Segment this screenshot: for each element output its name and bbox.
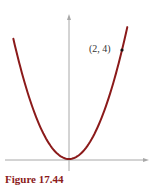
parabola-plot (0, 0, 158, 189)
point-label: (2, 4) (89, 43, 111, 54)
figure-caption: Figure 17.44 (5, 173, 63, 185)
point-marker (120, 48, 123, 51)
y-axis-arrow-icon (67, 14, 71, 20)
x-axis-arrow-icon (143, 158, 149, 162)
